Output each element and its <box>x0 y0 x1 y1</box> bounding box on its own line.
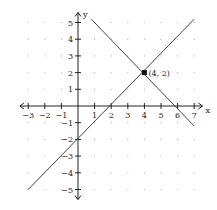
grid-dot <box>194 156 195 157</box>
grid-dot <box>160 89 161 90</box>
intersection-point-marker <box>142 70 147 75</box>
y-tick-label: −5 <box>61 186 73 195</box>
y-axis-label: y <box>82 10 88 19</box>
grid-dot <box>160 139 161 140</box>
grid-dot <box>111 139 112 140</box>
grid-dot <box>28 122 29 123</box>
x-tick-label: −2 <box>39 111 51 120</box>
x-tick-label: 1 <box>92 111 97 120</box>
grid-dot <box>28 55 29 56</box>
grid-dot <box>94 156 95 157</box>
grid-dot <box>28 172 29 173</box>
grid-dot <box>61 39 62 40</box>
plotted-lines <box>28 19 194 189</box>
x-tick-label: 2 <box>109 111 114 120</box>
y-tick-label: −1 <box>61 119 73 128</box>
grid-dot <box>94 55 95 56</box>
grid-dot <box>160 122 161 123</box>
grid-dot <box>44 39 45 40</box>
x-tick-label: 3 <box>125 111 130 120</box>
grid-dot <box>177 122 178 123</box>
grid-dot <box>144 89 145 90</box>
grid-dot <box>111 122 112 123</box>
grid-dot <box>127 72 128 73</box>
grid-dot <box>194 189 195 190</box>
grid-dot <box>194 22 195 23</box>
grid-dot <box>28 39 29 40</box>
grid-dot <box>94 172 95 173</box>
grid-dot <box>160 22 161 23</box>
y-tick-label: −4 <box>61 169 73 178</box>
grid-dot <box>194 55 195 56</box>
grid-dot <box>160 156 161 157</box>
grid-dot <box>28 89 29 90</box>
grid-dot <box>177 189 178 190</box>
grid-dot <box>144 22 145 23</box>
grid-dot <box>144 139 145 140</box>
grid-dot <box>127 89 128 90</box>
grid-dot <box>160 189 161 190</box>
grid-dot <box>177 172 178 173</box>
intersection-point-label: (4, 2) <box>148 69 170 78</box>
grid-dot <box>127 172 128 173</box>
coordinate-plane: −3−2−11234567−5−4−3−2−112345xy (4, 2) <box>0 0 217 210</box>
grid-dot <box>94 89 95 90</box>
x-tick-label: −3 <box>22 111 34 120</box>
grid-dot <box>160 172 161 173</box>
grid-dot <box>111 72 112 73</box>
x-tick-label: 4 <box>142 111 147 120</box>
grid-dot <box>194 122 195 123</box>
grid-dot <box>61 72 62 73</box>
grid-dot <box>44 72 45 73</box>
grid-dot <box>177 72 178 73</box>
grid-dot <box>28 72 29 73</box>
grid-dot <box>177 156 178 157</box>
y-tick-label: 2 <box>68 69 73 78</box>
grid-dot <box>144 39 145 40</box>
grid-dot <box>177 22 178 23</box>
y-tick-label: 4 <box>68 35 73 44</box>
grid-dot <box>177 89 178 90</box>
grid-dot <box>144 172 145 173</box>
x-tick-label: 7 <box>192 111 197 120</box>
grid-dot <box>144 122 145 123</box>
grid-dot <box>177 55 178 56</box>
line-increasing <box>28 19 194 189</box>
x-tick-label: 5 <box>158 111 163 120</box>
grid-dot <box>28 156 29 157</box>
grid-dot <box>111 156 112 157</box>
grid-dot <box>44 156 45 157</box>
grid-dot <box>61 22 62 23</box>
y-tick-label: 5 <box>68 19 73 28</box>
x-axis-label: x <box>206 106 211 115</box>
grid-dot <box>61 55 62 56</box>
grid-dot <box>44 89 45 90</box>
grid-dot <box>127 189 128 190</box>
grid-dot <box>127 39 128 40</box>
y-tick-label: 1 <box>68 85 73 94</box>
grid-dot <box>127 22 128 23</box>
grid-dot <box>111 22 112 23</box>
grid-dot <box>177 39 178 40</box>
grid-dot <box>194 39 195 40</box>
grid-dot <box>44 22 45 23</box>
grid-dot <box>44 189 45 190</box>
grid-dot <box>194 89 195 90</box>
grid-dot <box>94 72 95 73</box>
grid-dot <box>194 172 195 173</box>
grid-dot <box>111 89 112 90</box>
grid-dot <box>144 189 145 190</box>
grid-dot <box>160 39 161 40</box>
grid-dot <box>94 39 95 40</box>
grid-dot <box>28 139 29 140</box>
grid-dot <box>194 72 195 73</box>
grid-dot <box>127 122 128 123</box>
grid-dot <box>144 156 145 157</box>
grid-dot <box>44 139 45 140</box>
grid-dot <box>28 22 29 23</box>
grid-dot <box>144 55 145 56</box>
grid-dot <box>61 89 62 90</box>
grid-dot <box>94 189 95 190</box>
grid-dot <box>111 172 112 173</box>
grid-dot <box>127 156 128 157</box>
